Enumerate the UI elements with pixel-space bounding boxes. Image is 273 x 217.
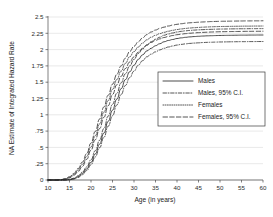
x-axis-title: Age (in years)	[134, 196, 175, 204]
x-tick-label: 60	[260, 184, 267, 191]
y-tick-label: 2.5	[35, 13, 44, 20]
hazard-rate-chart: 0.25.5.7511.251.51.7522.252.510152025303…	[0, 0, 273, 217]
y-tick-label: .75	[35, 127, 44, 134]
y-tick-label: 2	[40, 46, 44, 53]
x-tick-label: 10	[45, 184, 52, 191]
y-tick-label: 1.75	[31, 62, 44, 69]
chart-canvas: 0.25.5.7511.251.51.7522.252.510152025303…	[0, 0, 273, 217]
y-tick-label: .25	[35, 160, 44, 167]
x-tick-label: 30	[131, 184, 138, 191]
x-tick-label: 25	[109, 184, 116, 191]
legend-label-3: Females, 95% C.I.	[198, 113, 251, 120]
legend-label-1: Males, 95% C.I.	[198, 89, 243, 96]
x-tick-label: 55	[238, 184, 245, 191]
legend: MalesMales, 95% C.I.FemalesFemales, 95% …	[158, 72, 265, 126]
y-tick-label: .5	[38, 144, 44, 151]
x-tick-label: 50	[217, 184, 224, 191]
x-tick-label: 20	[88, 184, 95, 191]
y-tick-label: 2.25	[31, 30, 44, 37]
y-tick-label: 1	[40, 111, 44, 118]
x-tick-label: 45	[195, 184, 202, 191]
x-tick-label: 40	[174, 184, 181, 191]
y-tick-label: 1.5	[35, 78, 44, 85]
legend-label-0: Males	[198, 77, 215, 84]
y-axis-title: NA Estimate of Integrated Hazard Rate	[8, 41, 16, 155]
y-tick-label: 0	[40, 176, 44, 183]
legend-label-2: Females	[198, 101, 223, 108]
x-tick-label: 15	[66, 184, 73, 191]
x-tick-label: 35	[152, 184, 159, 191]
y-tick-label: 1.25	[31, 95, 44, 102]
